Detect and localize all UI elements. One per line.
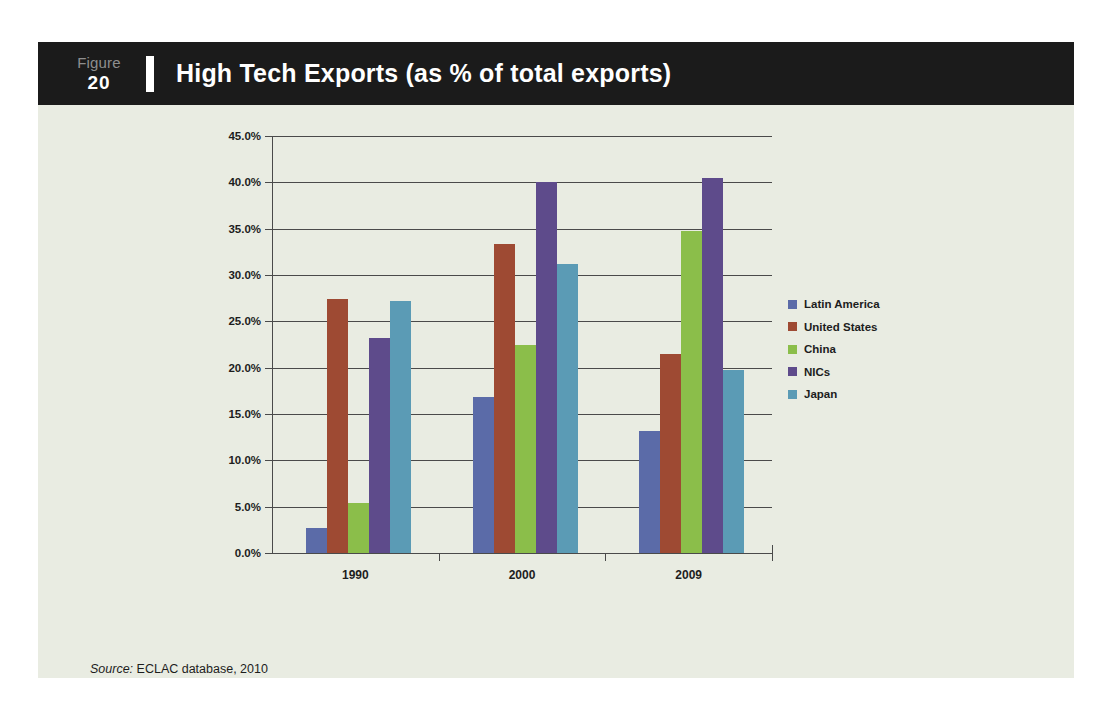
legend-label: United States — [804, 321, 878, 333]
y-axis-tick — [265, 321, 272, 322]
x-axis-label-2000: 2000 — [509, 568, 536, 582]
legend-swatch-icon — [788, 322, 797, 331]
x-axis-tick — [772, 553, 773, 561]
bar-china-1990 — [348, 503, 369, 553]
gridline — [272, 136, 772, 137]
y-axis-tick — [265, 136, 272, 137]
legend-swatch-icon — [788, 390, 797, 399]
bar-united-states-1990 — [327, 299, 348, 553]
chart-area: 0.0%5.0%10.0%15.0%20.0%25.0%30.0%35.0%40… — [38, 105, 1074, 678]
bar-nics-2009 — [702, 178, 723, 553]
chart-legend: Latin AmericaUnited StatesChinaNICsJapan — [788, 293, 880, 406]
legend-label: China — [804, 343, 836, 355]
bar-latin-america-2009 — [639, 431, 660, 553]
figure-label-word: Figure — [56, 55, 142, 70]
x-axis-line — [272, 553, 773, 554]
legend-item-united-states: United States — [788, 316, 880, 339]
source-text: ECLAC database, 2010 — [133, 662, 268, 676]
bar-japan-1990 — [390, 301, 411, 553]
title-divider-rule — [146, 56, 154, 92]
y-axis-tick — [265, 414, 272, 415]
legend-swatch-icon — [788, 345, 797, 354]
page-title: High Tech Exports (as % of total exports… — [176, 59, 671, 88]
y-axis-tick — [265, 507, 272, 508]
y-axis-label: 10.0% — [228, 454, 261, 466]
legend-item-latin-america: Latin America — [788, 293, 880, 316]
plot-area: 0.0%5.0%10.0%15.0%20.0%25.0%30.0%35.0%40… — [272, 136, 772, 553]
x-axis-tick — [605, 553, 606, 561]
y-axis-label: 15.0% — [228, 408, 261, 420]
legend-label: Japan — [804, 388, 837, 400]
y-axis-tick — [265, 460, 272, 461]
legend-label: Latin America — [804, 298, 880, 310]
y-axis-label: 20.0% — [228, 362, 261, 374]
figure-card: Figure 20 High Tech Exports (as % of tot… — [38, 42, 1074, 678]
y-axis-tick — [265, 182, 272, 183]
legend-item-nics: NICs — [788, 361, 880, 384]
legend-item-china: China — [788, 338, 880, 361]
x-axis-tick — [439, 553, 440, 561]
y-axis-label: 40.0% — [228, 176, 261, 188]
y-axis-line — [272, 136, 273, 554]
y-axis-label: 5.0% — [235, 501, 261, 513]
y-axis-label: 25.0% — [228, 315, 261, 327]
y-axis-tick — [265, 229, 272, 230]
legend-label: NICs — [804, 366, 830, 378]
legend-swatch-icon — [788, 367, 797, 376]
legend-swatch-icon — [788, 300, 797, 309]
figure-header: Figure 20 High Tech Exports (as % of tot… — [38, 42, 1074, 105]
y-axis-tick — [265, 368, 272, 369]
bar-china-2000 — [515, 345, 536, 553]
y-axis-label: 0.0% — [235, 547, 261, 559]
y-axis-label: 45.0% — [228, 130, 261, 142]
bar-china-2009 — [681, 231, 702, 553]
figure-number: 20 — [56, 73, 142, 92]
bar-united-states-2000 — [494, 244, 515, 554]
bar-japan-2000 — [557, 264, 578, 553]
x-axis-label-2009: 2009 — [675, 568, 702, 582]
legend-item-japan: Japan — [788, 383, 880, 406]
figure-tag: Figure 20 — [56, 55, 142, 92]
source-note: Source: ECLAC database, 2010 — [90, 662, 268, 676]
source-prefix: Source: — [90, 662, 133, 676]
bar-nics-1990 — [369, 338, 390, 553]
y-axis-tick — [265, 275, 272, 276]
y-axis-tick — [265, 553, 272, 554]
bar-japan-2009 — [723, 370, 744, 553]
y-axis-label: 30.0% — [228, 269, 261, 281]
bar-latin-america-2000 — [473, 397, 494, 553]
bar-united-states-2009 — [660, 354, 681, 553]
gridline — [272, 182, 772, 183]
y-axis-label: 35.0% — [228, 223, 261, 235]
bar-latin-america-1990 — [306, 528, 327, 553]
x-axis-label-1990: 1990 — [342, 568, 369, 582]
bar-nics-2000 — [536, 182, 557, 553]
gridline — [272, 229, 772, 230]
